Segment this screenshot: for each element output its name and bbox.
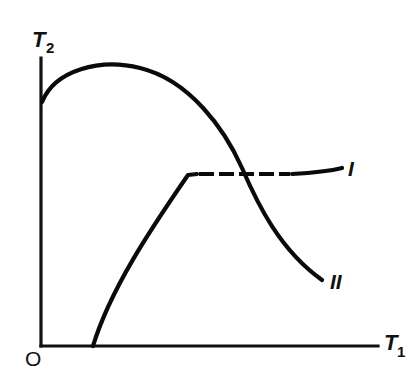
curve-i-end — [292, 168, 342, 174]
svg-text:2: 2 — [46, 39, 54, 56]
curve-i-label: I — [348, 157, 355, 180]
origin-label: O — [25, 347, 41, 370]
svg-text:T: T — [32, 27, 47, 52]
y-axis-label: T 2 — [32, 27, 54, 56]
curve-i-rising — [93, 174, 197, 346]
svg-text:1: 1 — [397, 343, 405, 360]
x-axis-label: T 1 — [384, 330, 405, 360]
diagram-canvas: T 2 T 1 O I II — [0, 0, 418, 391]
curve-ii-label: II — [330, 270, 343, 293]
